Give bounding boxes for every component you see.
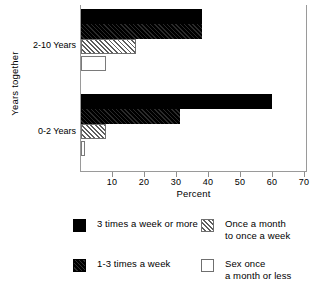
x-tick-label-10: 10	[100, 177, 124, 188]
bar-2-10-years-1-3-times-a-week	[81, 24, 202, 39]
x-axis-title: Percent	[80, 188, 307, 199]
bar-0-2-years-once-a-month-to-once-a-week	[81, 124, 106, 139]
x-tick-label-60: 60	[260, 177, 284, 188]
x-tick-label-70: 70	[292, 177, 316, 188]
y-axis-labels: 2-10 Years 0-2 Years Years together	[0, 0, 76, 180]
legend-label-once-a-month-to-once-a-week: Once a month to once a week	[225, 218, 290, 241]
legend-swatch-hatched-icon	[201, 219, 214, 232]
bar-0-2-years-sex-once-a-month-or-less	[81, 141, 85, 156]
x-tick-label-40: 40	[196, 177, 220, 188]
chart-legend: 3 times a week or more 1-3 times a week …	[0, 212, 334, 290]
legend-item-3-times-a-week-or-more: 3 times a week or more	[73, 218, 198, 232]
bar-2-10-years-3-times-a-week-or-more	[81, 9, 202, 24]
legend-swatch-solid-black-icon	[73, 219, 86, 232]
legend-item-once-a-month-to-once-a-week: Once a month to once a week	[201, 218, 290, 241]
bar-2-10-years-sex-once-a-month-or-less	[81, 56, 106, 71]
bars-layer	[81, 6, 307, 172]
y-axis-title: Years together	[9, 39, 20, 129]
y-category-label-0-2-years: 0-2 Years	[38, 126, 76, 137]
bar-0-2-years-1-3-times-a-week	[81, 109, 180, 124]
bar-2-10-years-once-a-month-to-once-a-week	[81, 39, 136, 54]
y-category-label-2-10-years: 2-10 Years	[33, 40, 76, 51]
legend-swatch-open-icon	[201, 259, 214, 272]
legend-swatch-dark-dense-icon	[73, 259, 86, 272]
legend-label-1-3-times-a-week: 1-3 times a week	[97, 258, 170, 270]
x-tick-label-30: 30	[164, 177, 188, 188]
x-tick-label-50: 50	[228, 177, 252, 188]
legend-item-1-3-times-a-week: 1-3 times a week	[73, 258, 170, 272]
legend-label-sex-once-a-month-or-less: Sex once a month or less	[225, 258, 291, 281]
legend-label-3-times-a-week-or-more: 3 times a week or more	[97, 218, 198, 230]
x-tick-label-20: 20	[132, 177, 156, 188]
legend-item-sex-once-a-month-or-less: Sex once a month or less	[201, 258, 291, 281]
bar-chart: 10 20 30 40 50 60 70 Percent 2-10 Years …	[0, 0, 334, 290]
bar-0-2-years-3-times-a-week-or-more	[81, 94, 272, 109]
